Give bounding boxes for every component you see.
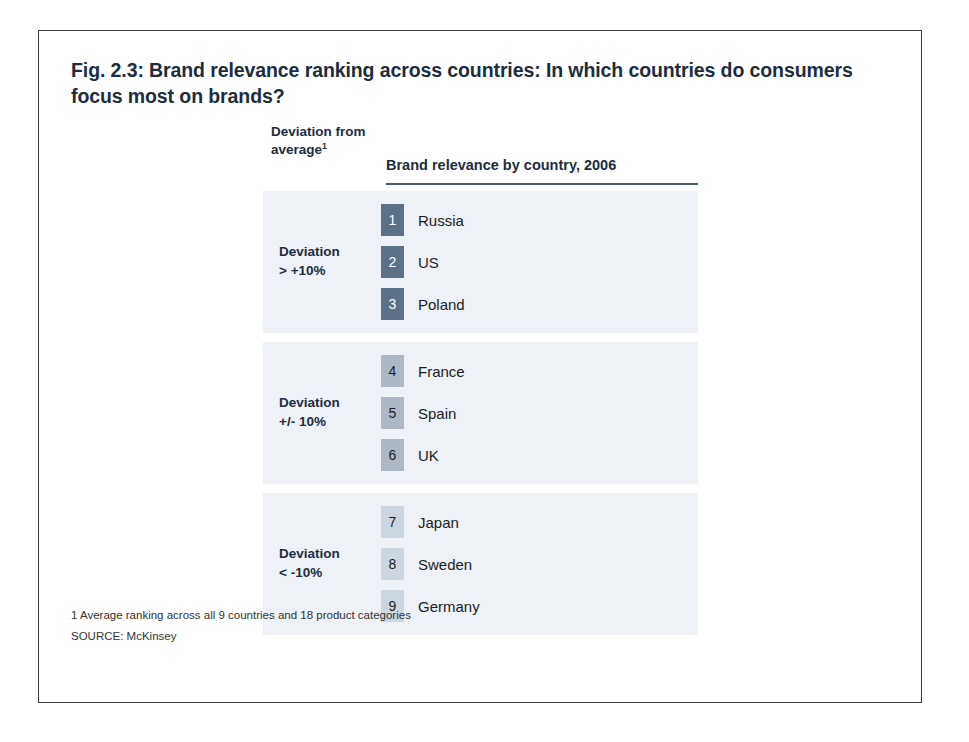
country-label: Germany [418,598,480,615]
deviation-band-label: Deviation+/- 10% [263,394,381,432]
deviation-band-label-line1: Deviation [279,545,381,564]
footnote-marker: 1 [322,141,327,151]
deviation-band-label-line1: Deviation [279,394,381,413]
ranking-row: 1Russia [381,203,698,237]
country-label: UK [418,447,439,464]
ranking-column-header: Brand relevance by country, 2006 [386,157,698,173]
ranking-row: 3Poland [381,287,698,321]
deviation-band-label-line1: Deviation [279,243,381,262]
deviation-band-label-line2: < -10% [279,564,381,583]
deviation-band-label-line2: +/- 10% [279,413,381,432]
rank-badge: 5 [381,397,404,429]
rank-badge: 8 [381,548,404,580]
footnote-1: 1 Average ranking across all 9 countries… [71,605,411,626]
rank-badge: 4 [381,355,404,387]
deviation-column-header-label: Deviation from average [271,124,366,157]
country-label: France [418,363,465,380]
rank-badge: 3 [381,288,404,320]
ranking-row: 6UK [381,438,698,472]
footnotes: 1 Average ranking across all 9 countries… [71,605,411,648]
ranking-column-rule [386,183,698,185]
rank-badge: 2 [381,246,404,278]
deviation-band-label-line2: > +10% [279,262,381,281]
country-label: US [418,254,439,271]
rank-badge: 1 [381,204,404,236]
page-title: Fig. 2.3: Brand relevance ranking across… [71,58,871,110]
ranking-row: 4France [381,354,698,388]
ranking-row: 9Germany [381,589,698,623]
rank-badge: 6 [381,439,404,471]
ranking-bands: Deviation> +10%1Russia2US3PolandDeviatio… [263,191,698,635]
deviation-band: Deviation> +10%1Russia2US3Poland [263,191,698,333]
rank-badge: 7 [381,506,404,538]
ranking-row: 8Sweden [381,547,698,581]
ranking-row: 2US [381,245,698,279]
deviation-band-label: Deviation< -10% [263,545,381,583]
country-label: Japan [418,514,459,531]
deviation-column-header: Deviation from average1 [271,123,381,159]
country-label: Spain [418,405,456,422]
country-label: Sweden [418,556,472,573]
ranking-row-list: 4France5Spain6UK [381,342,698,484]
ranking-row: 5Spain [381,396,698,430]
footnote-source: SOURCE: McKinsey [71,626,411,647]
ranking-row-list: 7Japan8Sweden9Germany [381,493,698,635]
country-label: Russia [418,212,464,229]
ranking-row: 7Japan [381,505,698,539]
deviation-band-label: Deviation> +10% [263,243,381,281]
figure-frame: Fig. 2.3: Brand relevance ranking across… [38,30,922,703]
ranking-row-list: 1Russia2US3Poland [381,191,698,333]
deviation-band: Deviation+/- 10%4France5Spain6UK [263,342,698,484]
country-label: Poland [418,296,465,313]
